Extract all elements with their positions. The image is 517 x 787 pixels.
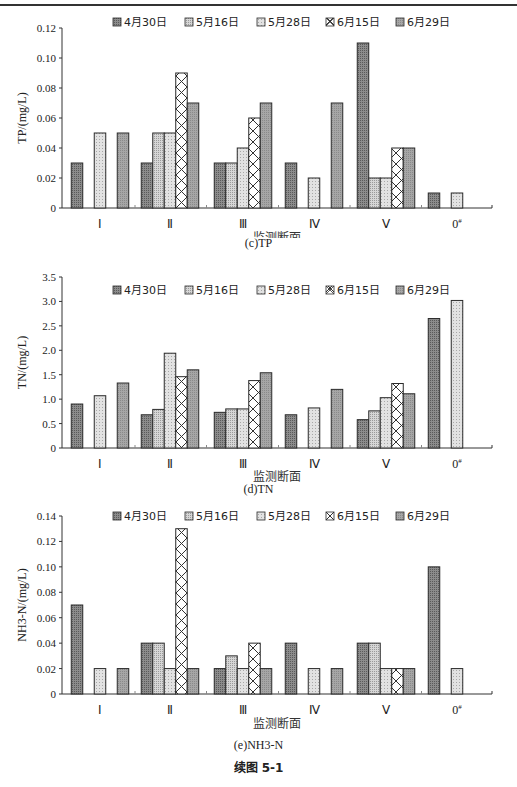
y-tick-label: 0.04 [37,142,57,154]
bar [392,669,404,694]
svg-text:6月15日: 6月15日 [337,16,380,29]
bar [331,669,343,694]
bar [94,133,106,208]
bar [71,163,83,208]
chart-svg: 00.020.040.060.080.100.12TP/(mg/L)ⅠⅡⅢⅣⅤ0… [0,10,517,238]
bar [187,103,199,208]
x-tick-label: 0# [452,703,462,717]
y-tick-label: 0.12 [37,22,56,34]
x-tick-label: Ⅰ [98,703,102,717]
y-tick-label: 0 [51,202,57,214]
y-tick-label: 0.06 [37,112,57,124]
y-tick-label: 0.02 [37,172,56,184]
y-tick-label: 0.12 [37,535,56,547]
svg-text:5月28日: 5月28日 [268,284,311,297]
y-tick-label: 0.08 [37,82,57,94]
bar [260,373,272,448]
bar [94,669,106,694]
bar [308,178,320,208]
svg-text:5月28日: 5月28日 [268,16,311,29]
bar [380,669,392,694]
y-tick-label: 0.08 [37,586,57,598]
page-top-rule [0,4,517,6]
bar [308,408,320,448]
svg-text:4月30日: 4月30日 [124,510,167,523]
bar [357,420,369,448]
bar [428,319,440,448]
bar [176,377,188,448]
legend-item: 6月15日 [326,16,380,29]
legend-item: 5月28日 [257,510,311,523]
svg-text:4月30日: 4月30日 [124,284,167,297]
svg-text:6月29日: 6月29日 [407,16,450,29]
bar [237,148,249,208]
bar [237,669,249,694]
y-tick-label: 0.04 [37,637,57,649]
bar [308,669,320,694]
y-tick-label: 0.10 [37,561,57,573]
chart-svg: 00.020.040.060.080.100.120.14NH3-N/(mg/L… [0,505,517,737]
bar [153,409,165,448]
bar [331,103,343,208]
svg-text:6月29日: 6月29日 [407,284,450,297]
bar [451,669,463,694]
svg-text:5月16日: 5月16日 [196,284,239,297]
bar [141,415,153,448]
x-tick-label: Ⅳ [309,703,320,717]
legend-item: 6月29日 [396,16,450,29]
x-tick-label: 0# [452,457,462,471]
y-tick-label: 2.5 [42,320,56,332]
bar [141,643,153,694]
legend-item: 6月15日 [326,510,380,523]
svg-text:6月15日: 6月15日 [337,510,380,523]
x-tick-label: Ⅲ [239,703,247,717]
bar [285,415,297,448]
bar [260,103,272,208]
chart-svg: 00.51.01.52.02.53.03.5TN/(mg/L)ⅠⅡⅢⅣⅤ0#监测… [0,266,517,482]
tp-chart-caption: (c)TP [0,236,517,251]
y-axis-label: NH3-N/(mg/L) [15,568,29,641]
x-tick-label: Ⅱ [167,703,173,717]
bar [187,370,199,448]
bar [214,669,226,694]
svg-text:5月28日: 5月28日 [268,510,311,523]
bar [94,396,106,448]
legend-item: 5月16日 [185,16,239,29]
y-tick-label: 3.5 [42,271,56,283]
bar [428,567,440,694]
y-tick-label: 0.5 [42,418,56,430]
bar [260,669,272,694]
y-tick-label: 2.0 [42,344,56,356]
bar [249,643,261,694]
y-axis-label: TN/(mg/L) [15,336,29,389]
bar [369,178,381,208]
y-tick-label: 3.0 [42,295,56,307]
legend-item: 6月15日 [326,284,380,297]
y-tick-label: 0 [51,442,57,454]
x-tick-label: Ⅴ [382,457,391,471]
bar [380,398,392,448]
tn-chart: 00.51.01.52.02.53.03.5TN/(mg/L)ⅠⅡⅢⅣⅤ0#监测… [0,266,517,482]
bar [392,148,404,208]
bar [153,133,165,208]
y-tick-label: 1.5 [42,369,56,381]
svg-text:5月16日: 5月16日 [196,510,239,523]
x-tick-label: Ⅰ [98,217,102,231]
bar [71,605,83,694]
legend-item: 5月16日 [185,284,239,297]
y-axis-label: TP/(mg/L) [15,92,29,143]
svg-text:5月16日: 5月16日 [196,16,239,29]
y-tick-label: 0 [51,688,57,700]
x-tick-label: Ⅳ [309,217,320,231]
bar [369,643,381,694]
nh3n-chart-caption: (e)NH3-N [0,738,517,753]
tp-chart: 00.020.040.060.080.100.12TP/(mg/L)ⅠⅡⅢⅣⅤ0… [0,10,517,238]
bar [249,381,261,448]
legend-item: 4月30日 [113,510,167,523]
x-tick-label: Ⅴ [382,217,391,231]
bar [117,669,129,694]
bar [357,643,369,694]
bar [249,118,261,208]
x-tick-label: Ⅴ [382,703,391,717]
bar [187,669,199,694]
